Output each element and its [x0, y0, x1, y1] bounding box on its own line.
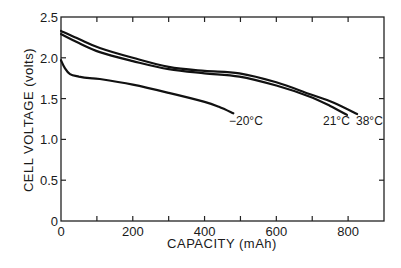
svg-text:800: 800 — [337, 224, 359, 239]
curves — [61, 31, 357, 115]
y-axis-title: CELL VOLTAGE (volts) — [21, 48, 36, 192]
svg-text:2.5: 2.5 — [40, 10, 58, 25]
y-tick-labels: 00.51.01.52.02.5 — [40, 10, 58, 229]
annotation-21c: 21°C — [323, 114, 350, 128]
annotation-38c: 38°C — [356, 114, 383, 128]
svg-text:1.0: 1.0 — [40, 132, 58, 147]
curve-38c — [61, 31, 357, 114]
discharge-chart: 0200400600800 00.51.01.52.02.5 CAPACITY … — [0, 0, 401, 268]
svg-text:2.0: 2.0 — [40, 51, 58, 66]
svg-text:0: 0 — [51, 214, 58, 229]
x-axis-title: CAPACITY (mAh) — [167, 236, 277, 251]
svg-text:1.5: 1.5 — [40, 92, 58, 107]
svg-text:200: 200 — [122, 224, 144, 239]
svg-text:0: 0 — [57, 224, 64, 239]
annotation-minus20c: −20°C — [229, 114, 263, 128]
svg-text:0.5: 0.5 — [40, 173, 58, 188]
curve--20c — [61, 60, 233, 113]
